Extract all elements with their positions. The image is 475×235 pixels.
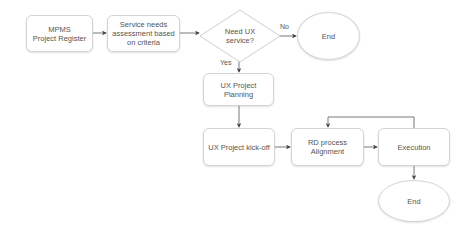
edge-label-yes: Yes [220,59,231,66]
node-end-bottom: End [378,180,450,222]
edge-execution-rd-loop [328,117,414,128]
node-need-ux-service: Need UX service? [215,27,265,45]
node-mpms-project-register: MPMS Project Register [26,15,93,52]
node-service-needs-assessment: Service needs assessment based on criter… [107,15,180,52]
node-ux-project-kickoff: UX Project kick-off [203,128,275,166]
node-execution: Execution [378,128,450,166]
node-end-top: End [297,12,360,60]
edge-label-no: No [280,23,289,30]
node-ux-project-planning: UX Project Planning [203,73,274,106]
node-rd-process-alignment: RD process Alignment [291,128,364,166]
